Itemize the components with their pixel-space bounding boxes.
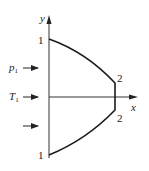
point-label-bottom-2: 2 — [117, 112, 123, 124]
temperature-label: T1 — [9, 90, 19, 104]
nozzle-flow-diagram: y x 1 2 2 1 p1 T1 — [0, 0, 149, 171]
y-axis-arrow-icon — [47, 15, 52, 24]
point-label-top-1: 1 — [38, 34, 44, 46]
point-label-top-2: 2 — [117, 72, 123, 84]
x-axis: x — [49, 95, 138, 114]
inlet-arrow-temperature: T1 — [9, 90, 38, 104]
x-axis-label: x — [130, 101, 136, 113]
y-axis-label: y — [39, 12, 45, 24]
x-axis-arrow-icon — [129, 95, 138, 100]
inlet-arrow-pressure: p1 — [8, 61, 38, 75]
pressure-label: p1 — [8, 61, 19, 75]
point-label-bottom-1: 1 — [38, 149, 44, 161]
